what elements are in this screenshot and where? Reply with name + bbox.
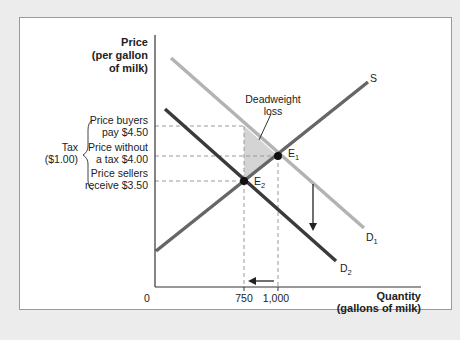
deadweight-loss-label: Deadweightloss bbox=[245, 93, 301, 117]
tax-chart: Price(per gallonof milk) Price buyerspay… bbox=[0, 0, 460, 340]
x-tick-750: 750 bbox=[235, 292, 253, 304]
d1-label: D1 bbox=[366, 231, 378, 246]
demand-shift-arrow bbox=[309, 184, 317, 231]
x-axis-label: Quantity(gallons of milk) bbox=[337, 290, 422, 314]
equilibrium-point-e2 bbox=[240, 177, 248, 185]
tax-label: Tax($1.00) bbox=[45, 141, 79, 165]
supply-label: S bbox=[370, 72, 377, 84]
x-tick-0: 0 bbox=[144, 292, 150, 304]
supply-curve bbox=[156, 82, 368, 251]
price-no-tax-label: Price withouta tax $4.00 bbox=[88, 141, 148, 165]
y-axis-label: Price(per gallonof milk) bbox=[92, 36, 149, 74]
deadweight-pointer bbox=[259, 114, 271, 140]
price-sellers-label: Price sellersreceive $3.50 bbox=[85, 167, 148, 191]
price-buyers-label: Price buyerspay $4.50 bbox=[90, 114, 149, 138]
demand-curve-d1 bbox=[171, 58, 364, 228]
equilibrium-point-e1 bbox=[274, 152, 282, 160]
deadweight-loss-area bbox=[244, 126, 278, 181]
x-tick-1000: 1,000 bbox=[263, 292, 289, 304]
d2-label: D2 bbox=[340, 262, 352, 277]
e1-label: E1 bbox=[288, 147, 299, 162]
quantity-shift-arrow bbox=[248, 277, 274, 285]
